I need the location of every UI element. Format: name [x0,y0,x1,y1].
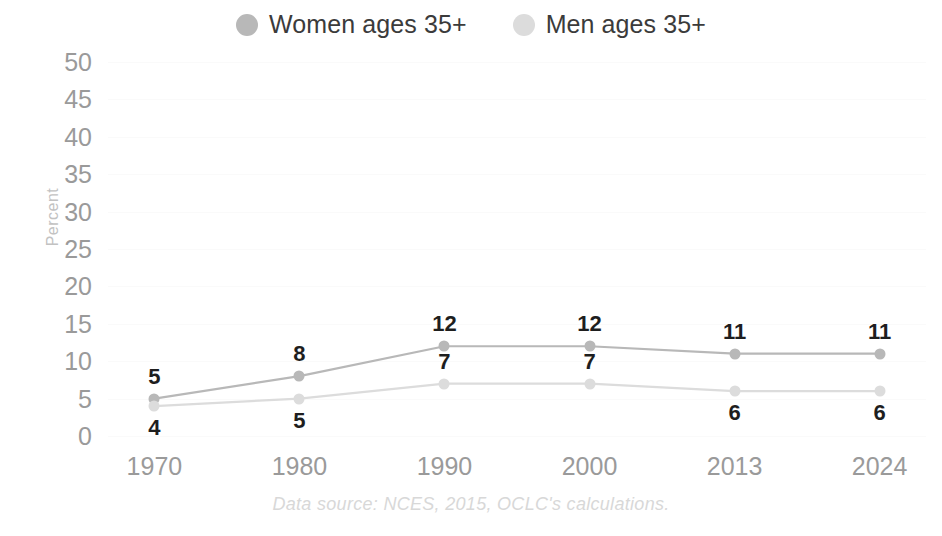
data-point-value-label: 6 [873,400,885,426]
legend-label-women: Women ages 35+ [269,10,467,39]
x-axis-tick: 1990 [417,452,473,481]
legend-dot-women-icon [236,14,258,36]
y-axis-tick: 15 [64,309,92,338]
x-axis-tick: 1970 [127,452,183,481]
y-axis-tick: 35 [64,160,92,189]
data-point-marker[interactable] [874,348,885,359]
data-point-value-label: 7 [438,349,450,375]
y-axis-tick: 40 [64,122,92,151]
data-point-marker[interactable] [294,393,305,404]
data-point-marker[interactable] [874,386,885,397]
data-point-marker[interactable] [584,378,595,389]
data-point-marker[interactable] [729,348,740,359]
data-point-value-label: 5 [293,408,305,434]
data-point-value-label: 7 [583,349,595,375]
y-axis-title: Percent [44,172,62,262]
data-point-value-label: 8 [293,341,305,367]
data-point-value-label: 6 [728,400,740,426]
y-axis-tick: 5 [78,384,92,413]
legend-item-women[interactable]: Women ages 35+ [236,10,467,39]
series-lines [108,62,926,436]
y-axis-tick: 45 [64,85,92,114]
x-axis-tick: 2024 [852,452,908,481]
y-axis-tick: 50 [64,48,92,77]
legend-label-men: Men ages 35+ [546,10,706,39]
data-point-marker[interactable] [149,401,160,412]
series-line [154,384,879,406]
data-point-marker[interactable] [729,386,740,397]
gridline [108,436,926,437]
source-note: Data source: NCES, 2015, OCLC's calculat… [0,494,942,515]
chart-container: Women ages 35+ Men ages 35+ Percent 0510… [0,0,942,536]
data-point-value-label: 5 [148,364,160,390]
x-axis-tick: 2000 [562,452,618,481]
y-axis-tick: 10 [64,347,92,376]
x-axis-tick: 1980 [272,452,328,481]
data-point-value-label: 11 [868,319,891,345]
y-axis-tick: 30 [64,197,92,226]
plot-area: 05101520253035404550 1970198019902000201… [108,62,926,436]
y-axis-tick: 0 [78,422,92,451]
data-point-marker[interactable] [294,371,305,382]
y-axis-tick: 20 [64,272,92,301]
legend-item-men[interactable]: Men ages 35+ [513,10,706,39]
data-point-value-label: 11 [723,319,746,345]
y-axis-tick: 25 [64,235,92,264]
x-axis-tick: 2013 [707,452,763,481]
legend-dot-men-icon [513,14,535,36]
data-point-value-label: 12 [577,311,601,337]
data-point-value-label: 12 [432,311,456,337]
data-point-value-label: 4 [148,415,160,441]
chart-legend: Women ages 35+ Men ages 35+ [0,10,942,39]
data-point-marker[interactable] [439,378,450,389]
